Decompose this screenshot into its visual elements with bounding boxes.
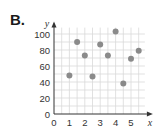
y-axis-label: y [44,18,50,29]
y-tick-label: 80 [39,45,50,56]
scatter-chart: 020406080100012345yx [0,0,154,134]
x-tick-label: 1 [67,117,72,128]
data-point [128,56,134,62]
x-tick-label: 5 [128,117,133,128]
data-point [97,41,103,47]
y-tick-label: 100 [34,29,50,40]
data-point [66,73,72,79]
data-point [105,53,111,59]
data-point [90,73,96,79]
data-point [74,39,80,45]
x-tick-label: 4 [113,117,118,128]
x-tick-label: 0 [51,117,56,128]
data-point [120,81,126,87]
x-axis-label: x [147,117,153,128]
y-tick-label: 20 [39,93,50,104]
y-tick-label: 0 [45,109,50,120]
x-tick-label: 3 [98,117,103,128]
y-tick-label: 60 [39,61,50,72]
data-point [113,29,119,35]
y-tick-label: 40 [39,77,50,88]
x-axis-arrow-icon [147,112,153,117]
y-axis-arrow-icon [52,22,57,28]
x-tick-label: 2 [82,117,87,128]
data-point [82,53,88,59]
data-point [136,48,142,54]
